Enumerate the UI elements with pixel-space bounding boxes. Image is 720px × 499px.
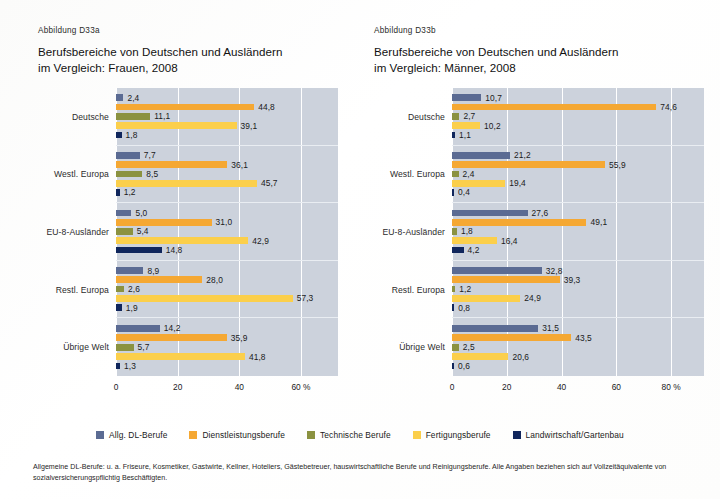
bar-3 bbox=[452, 171, 459, 178]
legend-item: Landwirtschaft/Gartenbau bbox=[513, 430, 624, 440]
legend-item: Technische Berufe bbox=[307, 430, 391, 440]
bar-value-label: 5,7 bbox=[138, 342, 150, 352]
bar-value-label: 5,0 bbox=[135, 208, 147, 218]
bar-1 bbox=[452, 267, 542, 274]
bar-row: 41,8 bbox=[116, 353, 338, 360]
bar-value-label: 31,0 bbox=[216, 217, 233, 227]
bar-row: 2,4 bbox=[116, 94, 338, 101]
bar-value-label: 41,8 bbox=[249, 352, 266, 362]
bar-value-label: 36,1 bbox=[231, 160, 248, 170]
bar-row: 21,2 bbox=[452, 152, 704, 159]
bar-3 bbox=[116, 171, 142, 178]
bar-row: 43,5 bbox=[452, 334, 704, 341]
bar-value-label: 0,6 bbox=[458, 361, 470, 371]
bar-row: 32,8 bbox=[452, 267, 704, 274]
bar-value-label: 28,0 bbox=[206, 275, 223, 285]
bar-row: 28,0 bbox=[116, 276, 338, 283]
bar-row: 44,8 bbox=[116, 104, 338, 111]
bar-row: 10,7 bbox=[452, 94, 704, 101]
bar-row: 5,7 bbox=[116, 344, 338, 351]
bar-3 bbox=[452, 228, 457, 235]
x-axis-d33b: 020406080 % bbox=[452, 376, 704, 398]
bar-4 bbox=[452, 237, 497, 244]
bar-3 bbox=[452, 286, 455, 293]
bar-value-label: 7,7 bbox=[144, 150, 156, 160]
bar-row: 16,4 bbox=[452, 237, 704, 244]
bar-2 bbox=[452, 104, 656, 111]
bar-value-label: 2,7 bbox=[463, 111, 475, 121]
category-label: EU-8-Ausländer bbox=[374, 203, 452, 261]
bar-row: 1,1 bbox=[452, 132, 704, 139]
bar-row: 27,6 bbox=[452, 210, 704, 217]
bar-value-label: 57,3 bbox=[297, 293, 314, 303]
bar-2 bbox=[116, 334, 227, 341]
bar-row: 10,2 bbox=[452, 122, 704, 129]
bar-row: 24,9 bbox=[452, 295, 704, 302]
bar-row: 45,7 bbox=[116, 180, 338, 187]
category-label: Übrige Welt bbox=[374, 318, 452, 376]
x-tick-label: 40 bbox=[557, 382, 566, 392]
bar-1 bbox=[116, 94, 123, 101]
bar-value-label: 1,2 bbox=[124, 187, 136, 197]
bar-value-label: 1,8 bbox=[126, 130, 138, 140]
legend-item: Dienstleistungsberufe bbox=[189, 430, 285, 440]
bar-value-label: 20,6 bbox=[512, 352, 529, 362]
bar-value-label: 2,4 bbox=[127, 93, 139, 103]
bar-value-label: 1,3 bbox=[124, 361, 136, 371]
category-label: Deutsche bbox=[38, 88, 116, 146]
bar-3 bbox=[116, 228, 133, 235]
bar-4 bbox=[116, 237, 248, 244]
bar-2 bbox=[116, 161, 227, 168]
bar-row: 14,8 bbox=[116, 247, 338, 254]
bar-row: 1,8 bbox=[452, 228, 704, 235]
bar-row: 19,4 bbox=[452, 180, 704, 187]
x-tick-label: 0 bbox=[450, 382, 455, 392]
bar-1 bbox=[116, 210, 131, 217]
category-label: Westl. Europa bbox=[38, 146, 116, 204]
figure-title-d33a: Berufsbereiche von Deutschen und Ausländ… bbox=[38, 44, 283, 76]
bar-row: 8,9 bbox=[116, 267, 338, 274]
bar-row: 31,5 bbox=[452, 325, 704, 332]
legend-label: Fertigungsberufe bbox=[426, 430, 491, 440]
bar-group: 32,839,31,224,90,8 bbox=[452, 261, 704, 319]
category-label: EU-8-Ausländer bbox=[38, 203, 116, 261]
bar-value-label: 42,9 bbox=[252, 236, 269, 246]
bar-5 bbox=[116, 363, 120, 370]
bar-value-label: 8,9 bbox=[147, 266, 159, 276]
bar-5 bbox=[452, 247, 464, 254]
bar-value-label: 4,2 bbox=[468, 245, 480, 255]
legend-swatch-icon bbox=[307, 431, 315, 439]
bar-value-label: 14,8 bbox=[166, 245, 183, 255]
bar-2 bbox=[116, 219, 212, 226]
bar-value-label: 2,4 bbox=[463, 169, 475, 179]
bar-2 bbox=[452, 276, 560, 283]
category-axis-d33b: DeutscheWestl. EuropaEU-8-AusländerRestl… bbox=[374, 88, 452, 376]
bar-value-label: 32,8 bbox=[546, 266, 563, 276]
bar-group: 5,031,05,442,914,8 bbox=[116, 203, 338, 261]
legend-swatch-icon bbox=[189, 431, 197, 439]
bar-row: 1,2 bbox=[452, 286, 704, 293]
bar-5 bbox=[116, 304, 122, 311]
bar-4 bbox=[452, 180, 505, 187]
bar-group: 7,736,18,545,71,2 bbox=[116, 146, 338, 204]
bar-value-label: 0,4 bbox=[458, 187, 470, 197]
bar-4 bbox=[116, 122, 237, 129]
x-tick-label: 20 bbox=[502, 382, 511, 392]
figure-title-d33b: Berufsbereiche von Deutschen und Ausländ… bbox=[374, 44, 619, 76]
bar-row: 1,3 bbox=[116, 363, 338, 370]
x-tick-label: 40 bbox=[235, 382, 244, 392]
bar-value-label: 14,2 bbox=[164, 323, 181, 333]
bar-row: 55,9 bbox=[452, 161, 704, 168]
bar-row: 20,6 bbox=[452, 353, 704, 360]
bar-1 bbox=[452, 210, 528, 217]
bar-3 bbox=[116, 113, 150, 120]
bar-value-label: 24,9 bbox=[524, 293, 541, 303]
bar-1 bbox=[452, 94, 481, 101]
bar-value-label: 1,1 bbox=[459, 130, 471, 140]
legend-label: Allg. DL-Berufe bbox=[109, 430, 167, 440]
bar-value-label: 44,8 bbox=[258, 102, 275, 112]
bar-value-label: 31,5 bbox=[542, 323, 559, 333]
bar-row: 1,2 bbox=[116, 189, 338, 196]
figure-page: Abbildung D33a Berufsbereiche von Deutsc… bbox=[0, 0, 720, 499]
bar-value-label: 39,3 bbox=[564, 275, 581, 285]
